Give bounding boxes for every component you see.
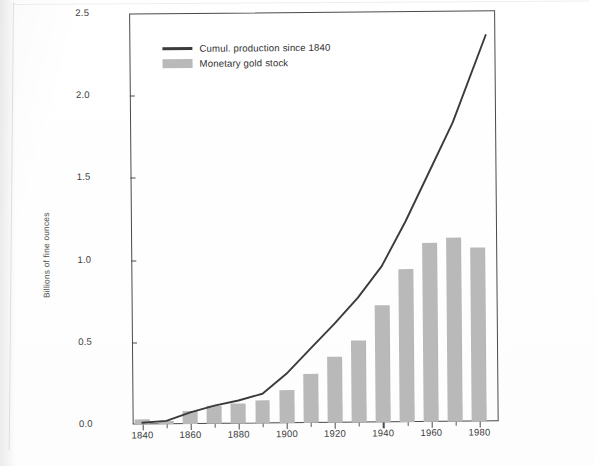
legend-bar-swatch (163, 59, 193, 68)
legend: Cumul. production since 1840Monetary gol… (162, 40, 330, 71)
legend-item: Monetary gold stock (162, 55, 330, 71)
figure-caption-clip: Fig. 20.1 Monetary Gold Stock and Cumula… (0, 449, 595, 466)
legend-label: Monetary gold stock (199, 57, 288, 69)
figure-chart: Billions of fine ounces 0.00.51.01.52.02… (0, 0, 595, 466)
cumulative-production-polyline (139, 35, 489, 423)
legend-item: Cumul. production since 1840 (162, 40, 330, 56)
legend-line-swatch (162, 47, 192, 49)
legend-label: Cumul. production since 1840 (199, 42, 330, 54)
